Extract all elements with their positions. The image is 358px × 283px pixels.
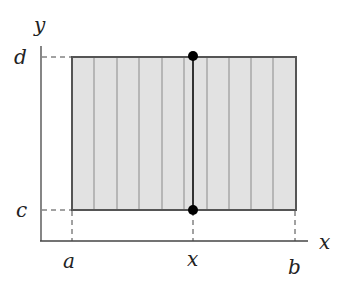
slice-x-label: x [187, 247, 198, 271]
y-axis-label: y [33, 13, 46, 37]
top-point [188, 51, 198, 61]
a-label: a [63, 249, 75, 273]
x-axis-label: x [319, 230, 330, 254]
c-label: c [16, 198, 27, 222]
d-label: d [14, 45, 27, 69]
diagram-canvas: y d c a x b x [0, 0, 358, 283]
b-label: b [288, 255, 301, 279]
bottom-point [188, 205, 198, 215]
